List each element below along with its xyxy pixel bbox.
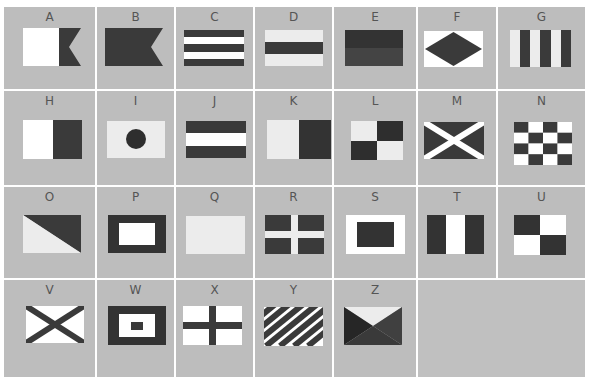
flag-letter: C	[176, 10, 253, 24]
flag-letter: P	[97, 190, 174, 204]
flag-letter: L	[334, 94, 416, 108]
flag-letter: U	[498, 190, 585, 204]
flag-letter: J	[176, 94, 253, 108]
flag-cell-y: Y	[255, 280, 332, 377]
flag-cell-q: Q	[176, 187, 253, 278]
flag-cell-n: N	[498, 91, 585, 185]
flag-o-icon	[23, 215, 81, 253]
flag-cell-c: C	[176, 7, 253, 89]
flag-cell-l: L	[334, 91, 416, 185]
flag-cell-m: M	[418, 91, 496, 185]
flag-g-icon	[510, 30, 571, 67]
flag-letter: O	[4, 190, 95, 204]
flag-t-icon	[427, 215, 484, 254]
flag-cell-u: U	[498, 187, 585, 278]
flag-f-icon	[424, 31, 483, 67]
flag-cell-t: T	[418, 187, 496, 278]
flag-y-icon	[264, 307, 323, 346]
flag-cell-i: I	[97, 91, 174, 185]
flag-letter: D	[255, 10, 332, 24]
flag-i-icon	[107, 121, 165, 158]
flag-letter: K	[255, 94, 332, 108]
flag-letter: M	[418, 94, 496, 108]
flag-cell-g: G	[498, 7, 585, 89]
flag-cell-p: P	[97, 187, 174, 278]
flag-letter: E	[334, 10, 416, 24]
flag-cell-z: Z	[334, 280, 416, 377]
flag-cell-r: R	[255, 187, 332, 278]
flag-letter: F	[418, 10, 496, 24]
flag-letter: S	[334, 190, 416, 204]
signal-flag-chart: A B C D E F G	[4, 7, 585, 377]
flag-letter: R	[255, 190, 332, 204]
flag-r-icon	[265, 215, 324, 254]
flag-u-icon	[514, 215, 566, 255]
flag-z-icon	[344, 307, 402, 345]
flag-cell-w: W	[97, 280, 174, 377]
flag-letter: I	[97, 94, 174, 108]
flag-cell-s: S	[334, 187, 416, 278]
flag-cell-a: A	[4, 7, 95, 89]
flag-letter: Q	[176, 190, 253, 204]
flag-letter: W	[97, 283, 174, 297]
flag-p-icon	[108, 215, 166, 253]
flag-b-icon	[105, 28, 163, 66]
flag-h-icon	[23, 120, 82, 159]
flag-n-icon	[514, 122, 572, 165]
flag-c-icon	[184, 30, 244, 66]
flag-a-icon	[23, 28, 81, 66]
flag-d-icon	[265, 30, 323, 66]
flag-letter: Y	[255, 283, 332, 297]
flag-letter: G	[498, 10, 585, 24]
flag-letter: H	[4, 94, 95, 108]
flag-v-icon	[26, 306, 84, 343]
flag-x-icon	[183, 306, 242, 345]
flag-letter: Z	[334, 283, 416, 297]
flag-letter: B	[97, 10, 174, 24]
flag-e-icon	[345, 30, 403, 66]
flag-letter: V	[4, 283, 95, 297]
flag-letter: N	[498, 94, 585, 108]
flag-s-icon	[346, 215, 405, 254]
flag-cell-h: H	[4, 91, 95, 185]
flag-l-icon	[351, 121, 403, 160]
flag-cell-b: B	[97, 7, 174, 89]
flag-letter: X	[176, 283, 253, 297]
flag-letter: A	[4, 10, 95, 24]
flag-j-icon	[186, 121, 246, 158]
flag-cell-j: J	[176, 91, 253, 185]
empty-cell	[418, 280, 585, 377]
flag-cell-v: V	[4, 280, 95, 377]
flag-cell-o: O	[4, 187, 95, 278]
flag-letter: T	[418, 190, 496, 204]
flag-q-icon	[186, 216, 245, 254]
flag-m-icon	[424, 122, 484, 159]
flag-cell-f: F	[418, 7, 496, 89]
flag-cell-k: K	[255, 91, 332, 185]
flag-k-icon	[267, 120, 331, 159]
flag-cell-e: E	[334, 7, 416, 89]
flag-w-icon	[108, 306, 166, 345]
flag-cell-x: X	[176, 280, 253, 377]
flag-cell-d: D	[255, 7, 332, 89]
